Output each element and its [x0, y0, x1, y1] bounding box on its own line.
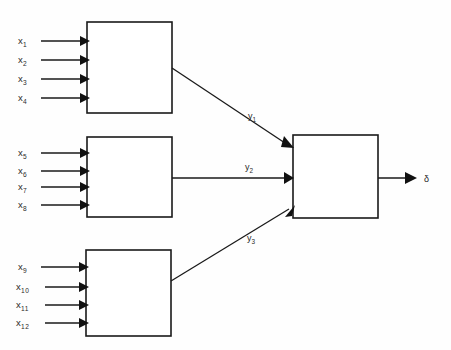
- block-2-input-arrows: [41, 148, 90, 210]
- diagram-canvas: x1 x2 x3 x4 x5 x6 x7 x8: [0, 0, 451, 350]
- input-label-x12: x12: [16, 317, 30, 330]
- output-arrow: [378, 172, 417, 184]
- signal-label-y2: y2: [245, 162, 254, 174]
- output-label-delta: δ: [424, 174, 429, 184]
- input-label-x7: x7: [18, 181, 27, 194]
- block-1: [87, 22, 172, 113]
- input-label-x10: x10: [16, 281, 30, 294]
- input-label-x2: x2: [18, 54, 27, 67]
- signal-label-y1: y1: [248, 111, 257, 123]
- signal-path-y1: [172, 68, 294, 148]
- combiner-block: [293, 135, 378, 218]
- input-label-x9: x9: [18, 261, 27, 274]
- input-label-x11: x11: [16, 299, 29, 312]
- signal-label-y3: y3: [247, 233, 256, 245]
- signal-path-y2: [172, 172, 294, 184]
- input-label-x5: x5: [18, 147, 27, 160]
- input-label-x4: x4: [18, 92, 27, 105]
- input-label-x8: x8: [18, 199, 27, 212]
- input-label-x3: x3: [18, 73, 27, 86]
- input-label-x1: x1: [18, 35, 27, 48]
- block-2: [87, 137, 172, 217]
- block-3: [86, 250, 171, 336]
- block-1-input-arrows: [41, 36, 90, 103]
- block-diagram: x1 x2 x3 x4 x5 x6 x7 x8: [0, 0, 451, 350]
- input-label-x6: x6: [18, 165, 27, 178]
- signal-path-y3: [171, 205, 295, 281]
- block-3-input-arrows: [41, 262, 89, 328]
